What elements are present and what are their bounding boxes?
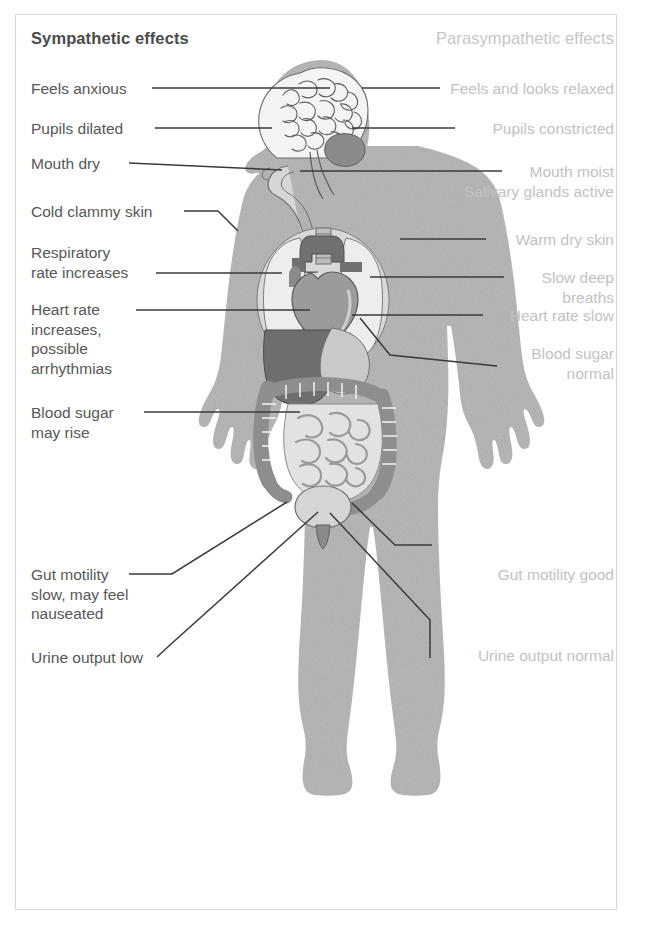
label-mouth-dry: Mouth dry: [31, 154, 100, 174]
label-slow-deep-breaths: Slow deep breaths: [542, 268, 614, 307]
label-mouth-moist: Mouth moist: [530, 162, 614, 182]
label-warm-dry-skin: Warm dry skin: [516, 230, 614, 250]
label-heart-rate-slow: Heart rate slow: [510, 306, 614, 326]
label-salivary-glands: Salivary glands active: [464, 182, 614, 202]
diagram-page: Sympathetic effects Parasympathetic effe…: [0, 0, 650, 942]
parasympathetic-heading: Parasympathetic effects: [436, 29, 614, 48]
label-feels-anxious: Feels anxious: [31, 79, 127, 99]
label-pupils-constricted: Pupils constricted: [493, 119, 614, 139]
label-urine-output-normal: Urine output normal: [478, 646, 614, 666]
label-cold-clammy-skin: Cold clammy skin: [31, 202, 152, 222]
human-body-illustration: [0, 0, 650, 942]
label-urine-output: Urine output low: [31, 648, 143, 668]
label-respiratory-rate: Respiratory rate increases: [31, 243, 128, 282]
label-gut-motility-good: Gut motility good: [498, 565, 614, 585]
label-heart-rate: Heart rate increases, possible arrhythmi…: [31, 300, 112, 378]
sympathetic-heading: Sympathetic effects: [31, 29, 189, 48]
label-pupils-dilated: Pupils dilated: [31, 119, 123, 139]
label-gut-motility: Gut motility slow, may feel nauseated: [31, 565, 128, 624]
label-blood-sugar: Blood sugar may rise: [31, 403, 114, 442]
label-blood-sugar-normal: Blood sugar normal: [531, 344, 614, 383]
label-feels-relaxed: Feels and looks relaxed: [450, 79, 614, 99]
